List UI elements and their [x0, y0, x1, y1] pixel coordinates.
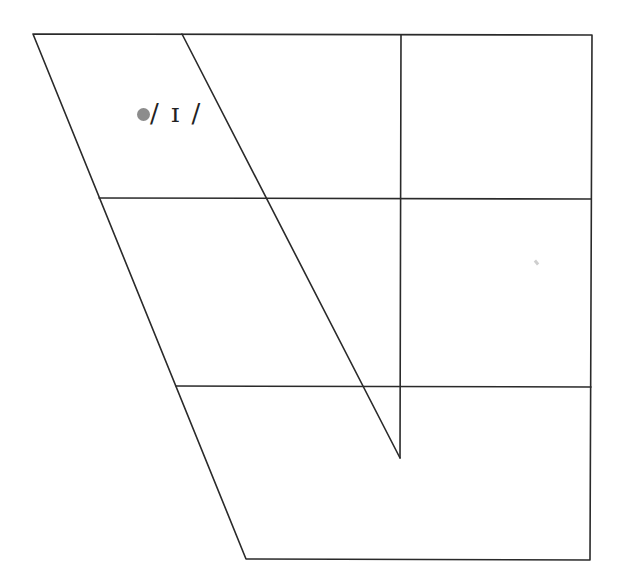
open-mid-line: [176, 386, 591, 387]
vowel-marker-dot: [137, 108, 150, 121]
central-diagonal: [182, 34, 400, 458]
back-vertical: [400, 35, 401, 458]
close-mid-line: [99, 198, 591, 199]
vowel-chart: [0, 0, 622, 585]
trapezoid-outline: [33, 34, 592, 560]
vowel-label: / ɪ /: [150, 98, 202, 128]
